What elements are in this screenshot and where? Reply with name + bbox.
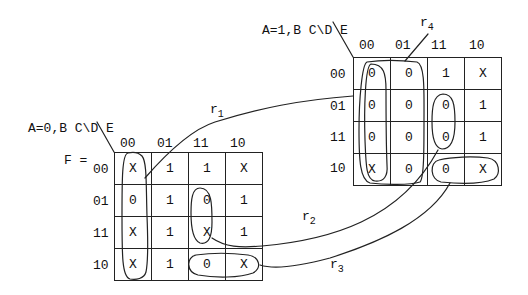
kmap-cell: 0 — [391, 90, 428, 122]
map-a0-row-header: 01 — [93, 195, 109, 208]
curve-r3 — [260, 183, 450, 267]
kmap-cell: 0 — [428, 122, 465, 154]
map-a1-row-header: 00 — [330, 68, 346, 81]
map-a1-col-header: 00 — [359, 39, 375, 52]
kmap-cell: X — [354, 154, 391, 186]
map-a0-row-header: 00 — [93, 163, 109, 176]
region-label-r3: r3 — [330, 258, 344, 272]
region-label-r1: r1 — [210, 103, 224, 117]
map-a0-col-header: 00 — [120, 137, 136, 150]
map-a1-col-header: 01 — [395, 39, 411, 52]
kmap-cell: 1 — [152, 217, 189, 249]
kmap-cell: X — [115, 249, 152, 281]
kmap-cell: 0 — [354, 90, 391, 122]
map-a0-function-label: F = — [64, 154, 87, 167]
kmap-cell: 1 — [465, 90, 502, 122]
map-a1-row-header: 10 — [330, 162, 346, 175]
kmap-cell: X — [189, 217, 226, 249]
map-a0-col-header: 01 — [157, 137, 173, 150]
kmap-cell: 0 — [391, 122, 428, 154]
kmap-cell: 1 — [428, 58, 465, 90]
kmap-cell: X — [115, 217, 152, 249]
kmap-row: X 1 0 X — [115, 249, 263, 281]
kmap-row: 0 1 0 1 — [115, 185, 263, 217]
map-a1-col-header: 10 — [469, 39, 485, 52]
kmap-cell: 1 — [152, 249, 189, 281]
region-label-r4: r4 — [420, 16, 434, 30]
map-a1-row-header: 11 — [330, 131, 346, 144]
kmap-cell: 0 — [354, 122, 391, 154]
kmap-cell: X — [226, 249, 263, 281]
map-a1-variable-label: A=1,B C\D E — [262, 24, 348, 37]
map-a0-col-header: 10 — [230, 137, 246, 150]
kmap-cell: 1 — [226, 217, 263, 249]
map-a0-row-header: 10 — [93, 259, 109, 272]
kmap-cell: 0 — [354, 58, 391, 90]
map-a0-row-header: 11 — [93, 227, 109, 240]
map-a1-row-header: 01 — [330, 100, 346, 113]
karnaugh-map-a0: X 1 1 X 0 1 0 1 X 1 X 1 X 1 0 X — [114, 152, 263, 281]
map-a0-variable-label: A=0,B C\D E — [28, 122, 114, 135]
kmap-row: X 0 0 X — [354, 154, 502, 186]
kmap-cell: 1 — [465, 122, 502, 154]
kmap-row: X 1 X 1 — [115, 217, 263, 249]
kmap-cell: 0 — [189, 249, 226, 281]
kmap-cell: 1 — [226, 185, 263, 217]
karnaugh-map-a1: 0 0 1 X 0 0 0 1 0 0 0 1 X 0 0 X — [353, 57, 502, 186]
kmap-cell: X — [226, 153, 263, 185]
kmap-row: 0 0 0 1 — [354, 90, 502, 122]
map-a1-col-header: 11 — [431, 39, 447, 52]
kmap-cell: 0 — [428, 154, 465, 186]
kmap-cell: 0 — [189, 185, 226, 217]
map-a0-col-header: 11 — [193, 137, 209, 150]
kmap-cell: 1 — [152, 185, 189, 217]
kmap-row: X 1 1 X — [115, 153, 263, 185]
kmap-cell: 0 — [428, 90, 465, 122]
kmap-cell: X — [465, 154, 502, 186]
kmap-row: 0 0 1 X — [354, 58, 502, 90]
kmap-cell: 1 — [189, 153, 226, 185]
kmap-cell: 1 — [152, 153, 189, 185]
kmap-cell: 0 — [391, 58, 428, 90]
kmap-cell: 0 — [391, 154, 428, 186]
kmap-cell: X — [465, 58, 502, 90]
kmap-cell: X — [115, 153, 152, 185]
kmap-row: 0 0 0 1 — [354, 122, 502, 154]
region-label-r2: r2 — [302, 210, 316, 224]
kmap-cell: 0 — [115, 185, 152, 217]
